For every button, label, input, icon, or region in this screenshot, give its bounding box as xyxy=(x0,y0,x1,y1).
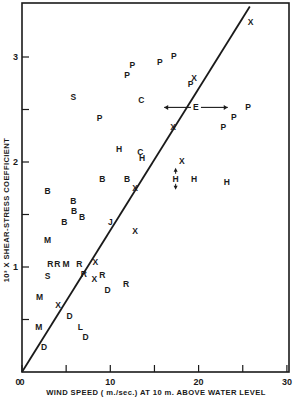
x-tick-label: 30 xyxy=(282,377,292,387)
plot-frame xyxy=(22,3,289,372)
data-point-d: D xyxy=(105,285,111,295)
data-point-h: H xyxy=(191,174,197,184)
data-point-h: H xyxy=(139,153,145,163)
data-point-h: H xyxy=(224,177,230,187)
data-point-x: X xyxy=(179,156,185,166)
data-point-b: B xyxy=(71,206,77,216)
data-point-b: B xyxy=(79,212,85,222)
data-point-d: D xyxy=(67,311,73,321)
data-point-p: P xyxy=(231,112,237,122)
data-point-b: B xyxy=(99,174,105,184)
y-axis-title: 10³ X SHEAR-STRESS COEFFICIENT xyxy=(2,138,11,283)
data-point-b: B xyxy=(70,196,76,206)
data-point-r: R xyxy=(76,259,82,269)
data-point-b: B xyxy=(124,174,130,184)
data-point-d: D xyxy=(41,342,47,352)
origin-label: 0 xyxy=(15,377,20,387)
data-point-r: R xyxy=(99,270,105,280)
data-point-h: H xyxy=(173,174,179,184)
data-point-p: P xyxy=(157,57,163,67)
data-point-x: X xyxy=(55,300,61,310)
data-point-r: R xyxy=(81,269,87,279)
data-point-x: X xyxy=(170,122,176,132)
data-point-d: D xyxy=(83,332,89,342)
data-point-p: P xyxy=(220,122,226,132)
data-point-e: E xyxy=(193,102,199,112)
x-tick-label: 20 xyxy=(194,377,204,387)
scatter-chart: 01020301230 SSPPPPPPPPPCCXXXXXXXXXEHHHHH… xyxy=(0,0,294,400)
data-point-x: X xyxy=(132,183,138,193)
data-point-m: M xyxy=(36,292,43,302)
data-point-l: L xyxy=(78,322,83,332)
data-point-b: B xyxy=(45,186,51,196)
data-point-x: X xyxy=(92,274,98,284)
y-tick-label: 1 xyxy=(13,262,18,272)
data-point-p: P xyxy=(97,113,103,123)
y-tick-label: 3 xyxy=(13,52,18,62)
data-point-p: P xyxy=(245,102,251,112)
data-point-r: R xyxy=(47,259,53,269)
data-point-x: X xyxy=(92,257,98,267)
data-point-m: M xyxy=(63,259,70,269)
data-point-j: J xyxy=(108,217,113,227)
data-point-x: X xyxy=(132,226,138,236)
x-tick-label: 10 xyxy=(105,377,115,387)
data-point-s: S xyxy=(70,92,76,102)
data-point-x: X xyxy=(191,73,197,83)
data-point-c: C xyxy=(138,95,144,105)
data-point-m: M xyxy=(44,235,51,245)
y-tick-label: 2 xyxy=(13,157,18,167)
data-point-h: H xyxy=(116,144,122,154)
data-point-r: R xyxy=(54,259,60,269)
data-point-m: M xyxy=(35,322,42,332)
data-point-s: S xyxy=(45,271,51,281)
data-point-r: R xyxy=(123,279,129,289)
data-points: SSPPPPPPPPPCCXXXXXXXXXEHHHHHBBBBBBBJMMMM… xyxy=(35,17,254,351)
data-point-p: P xyxy=(130,60,136,70)
data-point-p: P xyxy=(171,51,177,61)
data-point-p: P xyxy=(124,70,130,80)
data-point-x: X xyxy=(248,17,254,27)
x-axis-title: WIND SPEED ( m./sec.) AT 10 m. ABOVE WAT… xyxy=(46,388,266,397)
data-point-b: B xyxy=(61,217,67,227)
